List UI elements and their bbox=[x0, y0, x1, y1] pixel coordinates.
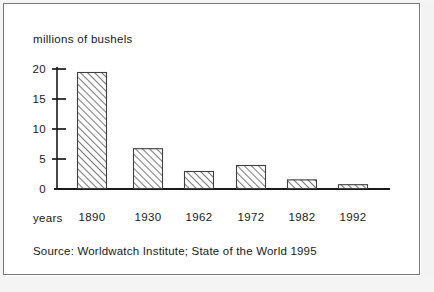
bar-series bbox=[77, 72, 368, 189]
y-tick-label: 0 bbox=[39, 183, 46, 195]
y-tick-label: 15 bbox=[33, 93, 46, 105]
bar bbox=[236, 165, 266, 189]
bar-chart-plot: 05101520 bbox=[0, 0, 434, 292]
y-tick-label: 20 bbox=[33, 63, 46, 75]
bar bbox=[184, 171, 214, 189]
bar bbox=[133, 148, 163, 189]
y-tick-label: 5 bbox=[39, 153, 46, 165]
x-tick-label: 1962 bbox=[169, 211, 229, 223]
x-tick-label: 1992 bbox=[323, 211, 383, 223]
bar bbox=[77, 72, 107, 189]
bar bbox=[287, 179, 317, 189]
y-axis: 05101520 bbox=[33, 63, 66, 195]
x-tick-label: 1890 bbox=[62, 211, 122, 223]
y-tick-label: 10 bbox=[33, 123, 46, 135]
